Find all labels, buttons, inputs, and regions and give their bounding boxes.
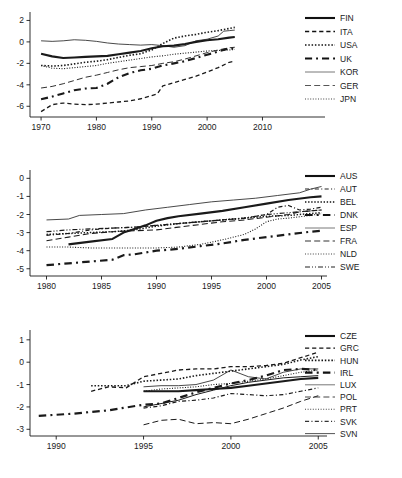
series-line-lux [144, 369, 319, 387]
legend-label-hun[interactable]: HUN [340, 356, 358, 366]
legend-label-aut[interactable]: AUT [340, 184, 357, 194]
y-tick-label: -4 [16, 80, 24, 90]
y-tick-label: -3 [16, 424, 24, 434]
series-line-usa [41, 27, 235, 66]
panel-3-plot: 10-1-2-31990199520002005CZEGRCHUNIRLLUXP… [0, 315, 402, 478]
series-line-dnk [47, 231, 322, 265]
x-tick-label: 1990 [147, 281, 166, 291]
series-line-aut [47, 205, 322, 235]
y-tick-label: -2 [16, 58, 24, 68]
y-tick-label: 2 [19, 15, 24, 25]
x-tick-label: 1970 [32, 122, 51, 132]
series-line-irl [39, 369, 319, 416]
y-tick-label: 1 [19, 335, 24, 345]
x-tick-label: 1980 [87, 122, 106, 132]
y-tick-label: -4 [16, 246, 24, 256]
y-tick-label: -6 [16, 101, 24, 111]
chart-panel-3: 10-1-2-31990199520002005CZEGRCHUNIRLLUXP… [0, 315, 402, 478]
panel-2-plot: 0-1-2-3-4-5198019851990199520002005AUSAU… [0, 155, 402, 315]
legend-label-jpn[interactable]: JPN [340, 94, 356, 104]
x-tick-label: 1995 [134, 441, 153, 451]
legend-label-kor[interactable]: KOR [340, 67, 358, 77]
legend-label-swe[interactable]: SWE [340, 262, 360, 272]
series-line-swe [47, 210, 322, 232]
legend-label-grc[interactable]: GRC [340, 343, 359, 353]
x-tick-label: 1990 [47, 441, 66, 451]
y-tick-label: -2 [16, 402, 24, 412]
x-tick-label: 2005 [312, 281, 331, 291]
series-line-ita [41, 61, 235, 111]
legend-label-fin[interactable]: FIN [340, 13, 354, 23]
legend-label-bel[interactable]: BEL [340, 197, 356, 207]
x-tick-label: 1980 [37, 281, 56, 291]
legend-label-nld[interactable]: NLD [340, 249, 357, 259]
x-tick-label: 1995 [202, 281, 221, 291]
x-tick-label: 2000 [257, 281, 276, 291]
legend-label-dnk[interactable]: DNK [340, 210, 358, 220]
multi-panel-line-chart-figure: 20-2-4-619701980199020002010FINITAUSAUKK… [0, 0, 402, 478]
chart-panel-2: 0-1-2-3-4-5198019851990199520002005AUSAU… [0, 155, 402, 315]
legend-label-svk[interactable]: SVK [340, 417, 357, 427]
legend-label-usa[interactable]: USA [340, 40, 358, 50]
x-tick-label: 1990 [142, 122, 161, 132]
legend-label-lux[interactable]: LUX [340, 380, 357, 390]
y-tick-label: -3 [16, 228, 24, 238]
legend-label-irl[interactable]: IRL [340, 368, 354, 378]
y-tick-label: -2 [16, 210, 24, 220]
legend-label-pol[interactable]: POL [340, 392, 357, 402]
y-tick-label: 0 [19, 173, 24, 183]
legend-label-cze[interactable]: CZE [340, 331, 357, 341]
x-tick-label: 1985 [92, 281, 111, 291]
y-tick-label: -1 [16, 380, 24, 390]
legend-label-aus[interactable]: AUS [340, 171, 358, 181]
chart-panel-1: 20-2-4-619701980199020002010FINITAUSAUKK… [0, 0, 402, 155]
x-tick-label: 2000 [198, 122, 217, 132]
legend-label-prt[interactable]: PRT [340, 404, 357, 414]
y-tick-label: 0 [19, 357, 24, 367]
y-tick-label: 0 [19, 37, 24, 47]
legend-label-ita[interactable]: ITA [340, 27, 353, 37]
legend-label-svn[interactable]: SVN [340, 429, 357, 439]
legend-label-uk[interactable]: UK [340, 54, 352, 64]
x-tick-label: 2010 [253, 122, 272, 132]
x-tick-label: 2000 [221, 441, 240, 451]
y-tick-label: -1 [16, 191, 24, 201]
legend-label-esp[interactable]: ESP [340, 223, 357, 233]
y-tick-label: -5 [16, 264, 24, 274]
panel-1-plot: 20-2-4-619701980199020002010FINITAUSAUKK… [0, 0, 402, 155]
legend-label-fra[interactable]: FRA [340, 236, 357, 246]
series-line-uk [41, 48, 235, 99]
x-tick-label: 2005 [309, 441, 328, 451]
legend-label-ger[interactable]: GER [340, 81, 358, 91]
